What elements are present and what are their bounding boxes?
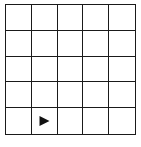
grid-cell-r3-c1[interactable] (32, 82, 58, 108)
grid-cell-r1-c3[interactable] (83, 31, 109, 57)
grid-cell-r3-c4[interactable] (109, 82, 135, 108)
grid-cell-r4-c2[interactable] (58, 108, 84, 134)
grid-cell-r2-c0[interactable] (6, 57, 32, 83)
grid-cell-r4-c4[interactable] (109, 108, 135, 134)
game-grid (5, 4, 136, 135)
grid-cell-r1-c1[interactable] (32, 31, 58, 57)
grid-cell-r3-c3[interactable] (83, 82, 109, 108)
grid-cell-r1-c2[interactable] (58, 31, 84, 57)
grid-cell-r0-c4[interactable] (109, 5, 135, 31)
grid-cell-r0-c2[interactable] (58, 5, 84, 31)
grid-cell-r4-c1[interactable] (32, 108, 58, 134)
grid-cell-r2-c4[interactable] (109, 57, 135, 83)
grid-cell-r3-c2[interactable] (58, 82, 84, 108)
grid-cell-r0-c1[interactable] (32, 5, 58, 31)
grid-cell-r1-c4[interactable] (109, 31, 135, 57)
triangle-right-icon (40, 116, 50, 126)
grid-cell-r2-c1[interactable] (32, 57, 58, 83)
grid-cell-r3-c0[interactable] (6, 82, 32, 108)
grid-cell-r4-c3[interactable] (83, 108, 109, 134)
grid-cell-r0-c3[interactable] (83, 5, 109, 31)
grid-cell-r1-c0[interactable] (6, 31, 32, 57)
grid-cell-r0-c0[interactable] (6, 5, 32, 31)
grid-cell-r4-c0[interactable] (6, 108, 32, 134)
grid-cell-r2-c3[interactable] (83, 57, 109, 83)
grid-cell-r2-c2[interactable] (58, 57, 84, 83)
